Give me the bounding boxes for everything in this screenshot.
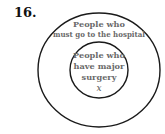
inner-set-label-line2: have major bbox=[74, 61, 125, 71]
outer-set-label-line2: must go to the hospital bbox=[53, 29, 145, 39]
inner-set-label-line1: People who bbox=[73, 50, 126, 60]
inner-set-label-line3: surgery bbox=[82, 72, 117, 82]
outer-set-label-line1: People who bbox=[73, 19, 126, 29]
element-x: x bbox=[96, 83, 101, 93]
euler-diagram: People who must go to the hospital Peopl… bbox=[0, 0, 165, 134]
